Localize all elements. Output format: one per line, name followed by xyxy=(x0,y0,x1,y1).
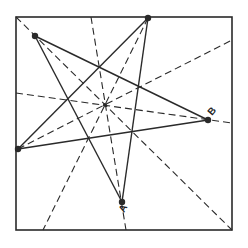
vertex-dot-left xyxy=(15,146,21,152)
star-edge xyxy=(35,36,208,120)
vertex-dot-top-left xyxy=(32,33,38,39)
star-edge xyxy=(18,120,208,149)
label-a: A xyxy=(116,202,129,214)
vertex-dot-b xyxy=(205,117,211,123)
vertex-dot-top xyxy=(145,15,151,21)
label-b: B xyxy=(205,105,218,118)
dashed-axis-lines xyxy=(16,17,232,230)
dashed-line xyxy=(16,17,232,230)
star-edge xyxy=(122,18,148,202)
dashed-line xyxy=(91,17,126,230)
center-point xyxy=(103,103,107,107)
dashed-line xyxy=(43,18,148,230)
star-edges xyxy=(18,18,208,202)
vertex-points xyxy=(15,15,211,205)
star-pentagram-diagram: B A xyxy=(0,0,248,248)
